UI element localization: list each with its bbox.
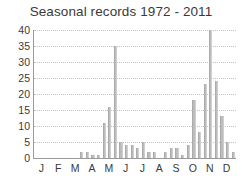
bar: [192, 100, 195, 158]
bar: [198, 132, 201, 158]
bar: [119, 142, 122, 158]
x-tick-label-6: J: [135, 162, 149, 175]
plot-area: [33, 30, 236, 159]
bar: [86, 152, 89, 158]
bar: [187, 145, 190, 158]
bar: [91, 155, 94, 158]
y-tick-label-5: 5: [2, 137, 30, 147]
y-tick-label-15: 15: [2, 105, 30, 115]
bar: [164, 152, 167, 158]
y-tick-label-20: 20: [2, 89, 30, 99]
y-tick-label-25: 25: [2, 73, 30, 83]
bar: [215, 81, 218, 158]
y-axis: 0510152025303540: [0, 30, 30, 158]
y-tick-label-0: 0: [2, 153, 30, 163]
x-tick-label-8: S: [169, 162, 183, 175]
y-tick-label-40: 40: [2, 25, 30, 35]
y-tick-label-30: 30: [2, 57, 30, 67]
x-tick-label-0: J: [34, 162, 48, 175]
bar: [170, 148, 173, 158]
y-tick-label-10: 10: [2, 121, 30, 131]
x-tick-label-4: M: [102, 162, 116, 175]
bar: [103, 123, 106, 158]
bar: [220, 116, 223, 158]
bar: [153, 152, 156, 158]
bar: [175, 148, 178, 158]
x-axis: JFMAMJJASOND: [33, 162, 235, 178]
bar-chart: Seasonal records 1972 - 2011 05101520253…: [0, 0, 242, 189]
bar: [147, 152, 150, 158]
bar: [80, 152, 83, 158]
x-tick-label-11: D: [220, 162, 234, 175]
bar: [125, 145, 128, 158]
bar: [97, 155, 100, 158]
x-tick-label-7: A: [152, 162, 166, 175]
bar: [204, 84, 207, 158]
bar: [232, 152, 235, 158]
x-tick-label-9: O: [186, 162, 200, 175]
bar: [209, 30, 212, 158]
x-tick-label-10: N: [203, 162, 217, 175]
x-tick-label-1: F: [51, 162, 65, 175]
bars-series: [34, 30, 236, 158]
bar: [114, 46, 117, 158]
bar: [142, 142, 145, 158]
bar: [226, 142, 229, 158]
chart-title: Seasonal records 1972 - 2011: [0, 4, 242, 19]
x-tick-label-3: A: [85, 162, 99, 175]
bar: [181, 155, 184, 158]
bar: [108, 107, 111, 158]
bar: [131, 145, 134, 158]
y-tick-label-35: 35: [2, 41, 30, 51]
x-tick-label-2: M: [68, 162, 82, 175]
x-tick-label-5: J: [119, 162, 133, 175]
bar: [136, 148, 139, 158]
